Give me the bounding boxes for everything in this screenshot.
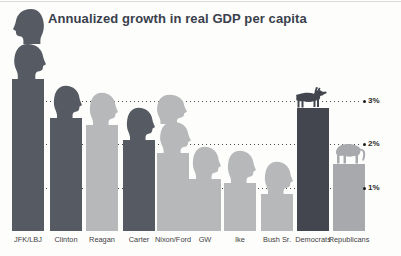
president-head-icon [262, 161, 293, 195]
president-head-icon [190, 146, 221, 180]
bar-clinton [50, 118, 82, 231]
tick-label-1: 1% [368, 183, 380, 193]
bar-gw [189, 179, 221, 231]
tick-dot-2 [363, 143, 366, 146]
donkey-icon [294, 86, 327, 108]
tick-dot-3 [363, 100, 366, 103]
axis-label-republicans: Republicans [323, 235, 375, 244]
president-head-icon [13, 8, 47, 44]
tick-label-3: 3% [368, 96, 380, 106]
bar-ike [224, 183, 256, 231]
tick-dot-1 [363, 187, 366, 190]
president-head-icon [154, 94, 187, 124]
gdp-growth-chart: Annualized growth in real GDP per capita… [0, 0, 401, 256]
bar-nixon-ford [157, 153, 189, 231]
bar-carter [123, 140, 155, 231]
bar-bush-sr [261, 194, 293, 231]
plot-area: 3%2%1%JFK/LBJClintonReaganCarterNixon/Fo… [0, 0, 401, 256]
bar-democrats [297, 108, 329, 231]
bar-reagan [86, 125, 118, 231]
president-head-icon [124, 107, 155, 141]
tick-label-2: 2% [368, 139, 380, 149]
bar-jfk-lbj [12, 79, 44, 231]
president-head-icon [157, 121, 191, 154]
bar-republicans [333, 164, 365, 231]
president-head-icon [87, 92, 118, 126]
president-head-icon [11, 43, 46, 79]
president-head-icon [225, 150, 256, 184]
president-head-icon [51, 85, 82, 119]
